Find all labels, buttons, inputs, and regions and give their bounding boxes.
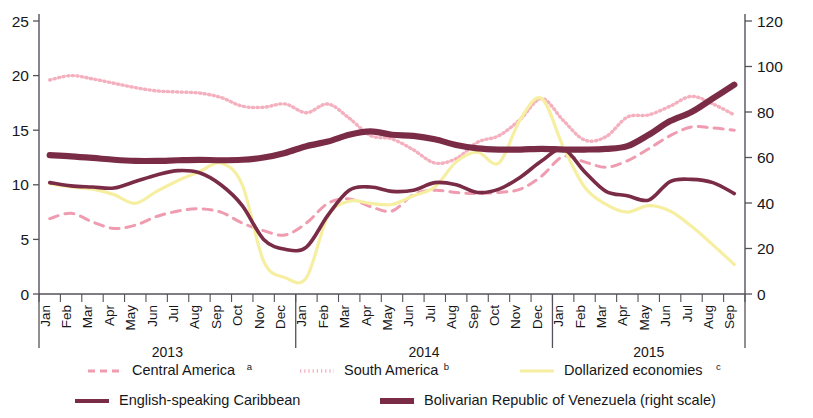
x-tick-label: Oct	[230, 305, 245, 326]
x-tick-label: Nov	[252, 305, 267, 329]
year-label: 2015	[633, 344, 664, 360]
x-tick-label: Sep	[466, 305, 481, 329]
y-tick-label-right: 0	[757, 286, 766, 303]
legend-footnote-south-america: b	[444, 361, 449, 372]
x-tick-label: May	[380, 305, 395, 331]
year-label: 2013	[152, 344, 183, 360]
legend-footnote-central-america: a	[247, 361, 253, 372]
x-tick-label: Apr	[359, 305, 374, 327]
legend-label-central-america: Central America	[132, 362, 236, 378]
series-group	[50, 76, 735, 283]
year-label: 2014	[409, 344, 440, 360]
x-tick-label: Jul	[680, 305, 695, 322]
line-chart: 2520151050120100806040200JanFebMarAprMay…	[0, 0, 813, 418]
x-tick-label: Jan	[551, 305, 566, 327]
x-tick-label: Nov	[508, 305, 523, 329]
x-tick-label: Feb	[59, 305, 74, 328]
series-line-bolivarian-republic-of-venezuela-right-scale	[50, 85, 735, 161]
x-tick-label: Apr	[615, 305, 630, 327]
y-tick-label-right: 100	[757, 58, 783, 75]
x-tick-label: Jul	[166, 305, 181, 322]
y-tick-label-left: 10	[12, 176, 30, 193]
y-tick-label-right: 60	[757, 149, 775, 166]
x-tick-label: Jan	[294, 305, 309, 327]
y-tick-label-left: 5	[20, 231, 29, 248]
x-tick-label: Sep	[722, 305, 737, 329]
x-tick-label: Aug	[187, 305, 202, 329]
x-tick-label: Jul	[423, 305, 438, 322]
y-tick-label-right: 80	[757, 104, 775, 121]
x-tick-label: Aug	[444, 305, 459, 329]
x-tick-label: May	[637, 305, 652, 331]
x-tick-label: Dec	[273, 305, 288, 329]
x-tick-label: Mar	[80, 304, 95, 328]
x-tick-label: Aug	[701, 305, 716, 329]
y-tick-label-left: 25	[12, 13, 29, 30]
x-tick-group: JanFebMarAprMayJunJulAugSepOctNovDecJanF…	[38, 294, 745, 331]
y-tick-label-right: 40	[757, 195, 775, 212]
legend-label-south-america: South America	[344, 362, 439, 378]
y-tick-label-left: 15	[12, 122, 29, 139]
x-tick-label: Jun	[145, 305, 160, 327]
y-tick-label-left: 20	[12, 67, 30, 84]
y-tick-label-right: 120	[757, 13, 783, 30]
legend: Central AmericaaSouth AmericabDollarized…	[75, 361, 721, 408]
y-tick-label-right: 20	[757, 240, 775, 257]
chart-container: 2520151050120100806040200JanFebMarAprMay…	[0, 0, 813, 418]
x-tick-label: Oct	[487, 305, 502, 326]
x-tick-label: Feb	[573, 305, 588, 328]
x-tick-label: Feb	[316, 305, 331, 328]
legend-label-dollarized-economies: Dollarized economies	[564, 362, 703, 378]
legend-label-english-speaking-caribbean: English-speaking Caribbean	[119, 392, 300, 408]
x-tick-label: Apr	[102, 305, 117, 327]
legend-footnote-dollarized-economies: c	[716, 361, 721, 372]
x-tick-label: May	[123, 305, 138, 331]
x-tick-label: Sep	[209, 305, 224, 329]
x-tick-label: Jun	[658, 305, 673, 327]
series-line-south-america	[50, 76, 735, 164]
x-tick-label: Mar	[337, 304, 352, 328]
x-tick-label: Jun	[401, 305, 416, 327]
x-tick-label: Dec	[530, 305, 545, 329]
y-tick-label-left: 0	[20, 286, 29, 303]
legend-label-venezuela: Bolivarian Republic of Venezuela (right …	[424, 392, 716, 408]
x-tick-label: Jan	[38, 305, 53, 327]
x-tick-label: Mar	[594, 304, 609, 328]
